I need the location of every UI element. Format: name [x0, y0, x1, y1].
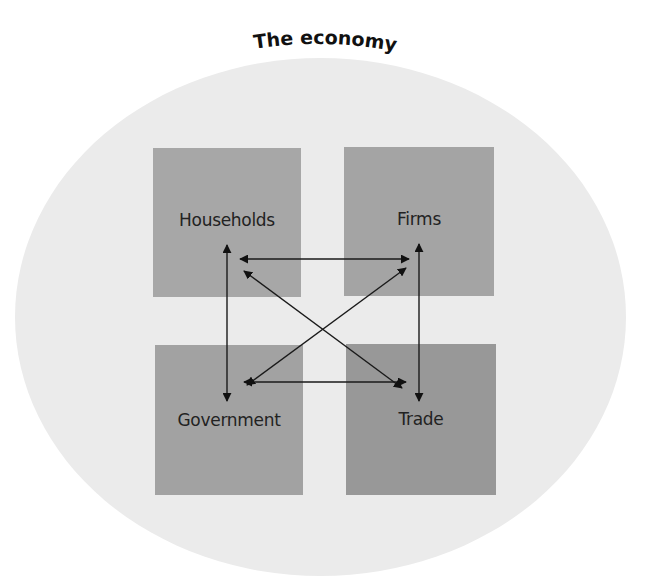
- arrow-firms-government: [247, 268, 406, 385]
- flow-arrows: [0, 0, 649, 583]
